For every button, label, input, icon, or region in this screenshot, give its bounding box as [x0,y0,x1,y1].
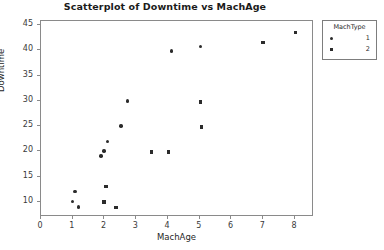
y-tick-label: 15 [0,172,33,180]
x-tick-mark [262,216,263,219]
legend-marker-circle-icon [330,37,333,40]
data-point [126,99,129,102]
x-tick-label: 2 [93,222,113,230]
data-points-layer [40,20,313,216]
legend-item: 1 [323,33,376,44]
data-point [199,45,202,48]
x-tick-label: 7 [252,222,272,230]
data-point [294,31,297,34]
x-tick-mark [199,216,200,219]
y-tick-label: 25 [0,121,33,129]
x-tick-label: 8 [284,222,304,230]
data-point [73,190,76,193]
data-point [106,140,109,143]
chart-root: Scatterplot of Downtime vs MachAge Downt… [0,0,384,250]
x-tick-mark [167,216,168,219]
y-tick-label: 30 [0,96,33,104]
data-point [99,154,102,157]
x-tick-label: 1 [62,222,82,230]
data-point [167,150,170,153]
legend: MachType 12 [322,20,377,60]
data-point [102,200,105,203]
x-tick-mark [40,216,41,219]
legend-item-label: 2 [366,45,370,53]
x-tick-label: 6 [220,222,240,230]
data-point [199,100,202,103]
legend-item: 2 [323,44,376,55]
x-tick-label: 0 [30,222,50,230]
data-point [77,205,80,208]
x-tick-label: 4 [157,222,177,230]
data-point [104,185,107,188]
data-point [119,124,122,127]
chart-title: Scatterplot of Downtime vs MachAge [0,1,330,12]
x-tick-mark [135,216,136,219]
x-tick-mark [294,216,295,219]
x-tick-mark [230,216,231,219]
x-tick-mark [72,216,73,219]
data-point [200,125,203,128]
legend-marker-square-icon [330,48,333,51]
data-point [170,49,173,52]
legend-title: MachType [323,23,376,31]
x-axis-label: MachAge [40,232,313,242]
data-point [261,41,264,44]
legend-item-label: 1 [366,34,370,42]
y-tick-label: 20 [0,146,33,154]
y-tick-label: 35 [0,71,33,79]
x-tick-label: 5 [189,222,209,230]
data-point [71,200,74,203]
x-tick-mark [103,216,104,219]
data-point [150,150,153,153]
y-tick-label: 10 [0,197,33,205]
y-tick-label: 45 [0,20,33,28]
y-tick-label: 40 [0,45,33,53]
data-point [114,206,117,209]
x-tick-label: 3 [125,222,145,230]
data-point [102,149,105,152]
